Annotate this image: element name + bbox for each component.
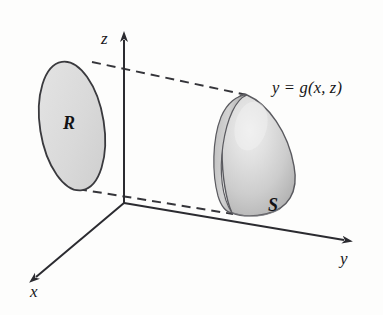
y-axis-label: y [340,250,348,267]
x-axis-label: x [30,283,38,300]
figure-canvas: z y x R S y = g(x, z) [0,0,383,315]
z-axis-label: z [101,30,108,47]
x-axis-line [36,203,124,277]
diagram-svg [0,0,383,315]
surface-equation-label: y = g(x, z) [272,80,342,97]
region-label-R: R [63,114,75,132]
top-projection-line [92,62,247,95]
bottom-projection-line [78,189,233,214]
surface-label-S: S [268,196,278,214]
surface-S-shape [214,94,295,216]
